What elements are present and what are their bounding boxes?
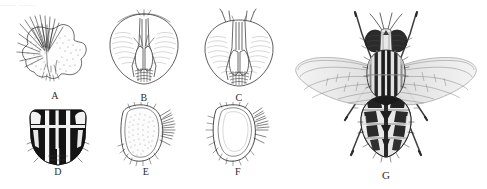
panel-f-label: F [202,166,274,177]
panel-c-figure [198,6,280,92]
panel-e-figure [110,102,182,166]
panel-f-figure [202,102,274,166]
panel-c: C [198,6,280,106]
panel-g-figure [288,4,484,170]
panel-g: G [288,4,484,189]
panel-d-label: D [26,166,90,177]
panel-a: A [16,14,94,104]
panel-b: B [104,8,184,106]
panel-g-label: G [288,170,484,181]
panel-d: D [26,108,90,180]
panel-d-figure [26,108,90,166]
panel-e: E [110,102,182,180]
panel-b-figure [104,8,184,92]
illustration-plate: ....... ....... [0,0,487,189]
panel-a-label: A [16,90,94,101]
panel-e-label: E [110,166,182,177]
panel-a-figure [16,14,94,90]
cropped-header-text: ....... ....... [0,0,210,8]
panel-f: F [202,102,274,180]
